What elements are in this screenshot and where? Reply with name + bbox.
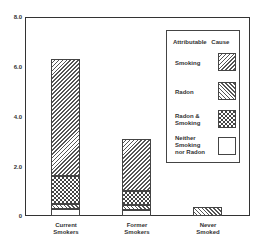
legend-label: Radon [175, 89, 209, 96]
y-tick-label: 4.0 [2, 114, 22, 120]
y-tick-label: 0 [2, 213, 22, 219]
legend-label: Radon & Smoking [175, 113, 209, 127]
legend-item-radon: Radon [175, 82, 237, 102]
bar-segment-smoking [51, 59, 80, 177]
x-label-line: Never [183, 222, 233, 229]
swatch-radon-icon [218, 82, 236, 100]
x-label-line: Current [41, 222, 91, 229]
y-tick-label: 2.0 [2, 164, 22, 170]
y-tick-label: 6.0 [2, 64, 22, 70]
legend-label: Neither Smoking nor Radon [175, 135, 209, 156]
y-tick-label: 8.0 [2, 14, 22, 20]
bar-segment-radon-smoking [51, 176, 80, 204]
legend-item-smoking: Smoking [175, 53, 237, 73]
bar-segment-radon [193, 207, 222, 216]
swatch-neither-icon [218, 137, 236, 155]
swatch-radon-and-smoking-icon [218, 110, 236, 128]
bar-segment-neither-smoking-nor-radon [122, 210, 151, 216]
x-label-current-smokers: Current Smokers [41, 222, 91, 236]
swatch-smoking-icon [218, 53, 236, 71]
bar-segment-radon [51, 204, 80, 209]
x-label-line: Former [112, 222, 162, 229]
bar-segment-neither-smoking-nor-radon [51, 209, 80, 217]
legend: Attributable Cause Smoking Radon Radon &… [166, 30, 240, 163]
x-label-line: Smokers [112, 229, 162, 236]
bar-segment-radon-smoking [122, 191, 151, 205]
x-label-never-smoked: Never Smoked [183, 222, 233, 236]
x-label-former-smokers: Former Smokers [112, 222, 162, 236]
legend-item-neither: Neither Smoking nor Radon [175, 135, 237, 157]
legend-label: Smoking [175, 60, 209, 67]
bar-segment-smoking [122, 139, 151, 192]
bar-segment-radon [122, 205, 151, 210]
legend-item-radon-and-smoking: Radon & Smoking [175, 110, 237, 130]
x-label-line: Smoked [183, 229, 233, 236]
x-label-line: Smokers [41, 229, 91, 236]
legend-title: Attributable Cause [173, 39, 229, 45]
